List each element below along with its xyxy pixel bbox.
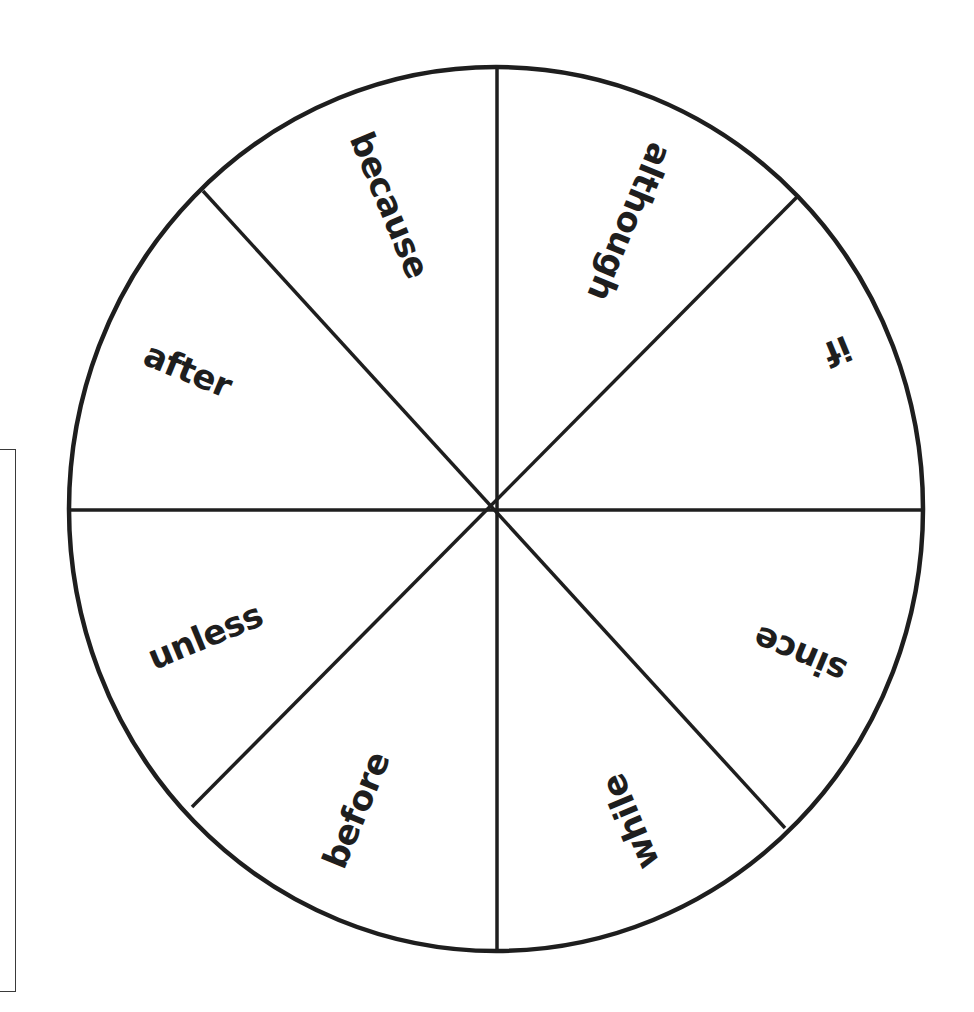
conjunction-wheel: because although if since while before u…: [0, 0, 974, 1012]
